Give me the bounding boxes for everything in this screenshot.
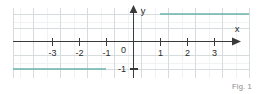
x-tick-label-neg1: -1 bbox=[102, 48, 110, 58]
x-axis-label: x bbox=[235, 23, 240, 34]
grid-major bbox=[13, 8, 249, 78]
origin-label: 0 bbox=[121, 45, 126, 55]
coordinate-plane-chart: -3 -2 -1 1 2 3 -1 0 x y bbox=[0, 0, 258, 94]
y-axis-arrow-icon bbox=[130, 5, 138, 13]
y-axis-label: y bbox=[141, 5, 146, 16]
x-tick-label-3: 3 bbox=[212, 48, 217, 58]
x-tick-label-1: 1 bbox=[158, 48, 163, 58]
figure-container: -3 -2 -1 1 2 3 -1 0 x y Fig. 1 bbox=[0, 0, 258, 94]
grid-minor bbox=[13, 8, 249, 78]
x-tick-label-neg3: -3 bbox=[48, 48, 56, 58]
x-tick-label-neg2: -2 bbox=[75, 48, 83, 58]
y-tick-label-neg1: -1 bbox=[118, 64, 126, 74]
figure-caption: Fig. 1 bbox=[232, 82, 252, 91]
x-tick-label-2: 2 bbox=[185, 48, 190, 58]
